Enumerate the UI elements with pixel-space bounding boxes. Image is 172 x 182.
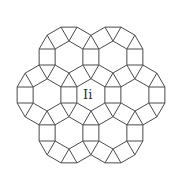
triangle-edge (69, 103, 77, 117)
square-edge (149, 103, 157, 117)
triangle-edge (135, 35, 143, 49)
square-edge (69, 27, 77, 41)
square-edge (121, 79, 135, 87)
square-edge (99, 117, 113, 125)
square-edge (69, 149, 77, 163)
square-edge (113, 117, 127, 125)
figure-label: Ii (83, 88, 92, 101)
square-edge (91, 27, 105, 35)
square-edge (127, 141, 135, 155)
hexagon-edge (33, 103, 47, 111)
square-edge (91, 155, 105, 163)
square-edge (77, 27, 91, 35)
square-edge (47, 155, 61, 163)
square-edge (25, 117, 39, 125)
square-edge (113, 73, 121, 87)
square-edge (47, 111, 55, 125)
hexagon-edge (55, 65, 69, 73)
triangle-edge (91, 65, 99, 79)
hexagon-edge (47, 103, 61, 111)
square-edge (47, 65, 55, 79)
triangle-edge (39, 35, 47, 49)
hexagon-edge (77, 103, 91, 111)
hexagon-edge (99, 41, 113, 49)
square-edge (105, 149, 113, 163)
triangle-edge (91, 141, 99, 155)
square-edge (121, 155, 135, 163)
square-edge (47, 35, 55, 49)
square-edge (47, 27, 61, 35)
square-edge (25, 65, 39, 73)
triangle-edge (135, 141, 143, 155)
square-edge (91, 111, 99, 125)
hexagon-edge (113, 41, 127, 49)
hexagon-edge (69, 65, 83, 73)
triangle-edge (17, 73, 25, 87)
hexagon-edge (99, 65, 113, 73)
square-edge (83, 35, 91, 49)
triangle-edge (17, 103, 25, 117)
hexagon-edge (69, 141, 83, 149)
square-edge (127, 35, 135, 49)
triangle-edge (157, 103, 165, 117)
square-edge (91, 79, 105, 87)
square-edge (113, 149, 121, 163)
square-edge (47, 79, 61, 87)
hexagon-edge (55, 141, 69, 149)
hexagon-edge (91, 103, 105, 111)
square-edge (113, 27, 121, 41)
square-edge (135, 111, 143, 125)
square-edge (55, 117, 69, 125)
square-edge (77, 79, 91, 87)
square-edge (83, 111, 91, 125)
square-edge (127, 111, 135, 125)
square-edge (47, 141, 55, 155)
hexagon-edge (113, 65, 127, 73)
square-edge (127, 65, 135, 79)
square-edge (61, 73, 69, 87)
square-edge (105, 103, 113, 117)
square-edge (143, 65, 157, 73)
triangle-edge (39, 65, 47, 79)
triangle-edge (157, 73, 165, 87)
square-edge (83, 141, 91, 155)
hexagon-edge (69, 41, 83, 49)
hexagon-edge (113, 141, 127, 149)
hexagon-edge (121, 103, 135, 111)
hexagon-edge (99, 141, 113, 149)
square-edge (25, 103, 33, 117)
square-edge (39, 111, 47, 125)
square-edge (69, 73, 77, 87)
square-edge (121, 27, 135, 35)
square-edge (61, 149, 69, 163)
triangle-edge (135, 65, 143, 79)
square-edge (61, 103, 69, 117)
hexagon-edge (135, 103, 149, 111)
hexagon-edge (33, 79, 47, 87)
square-edge (77, 155, 91, 163)
square-edge (105, 27, 113, 41)
hexagon-edge (135, 79, 149, 87)
triangle-edge (113, 103, 121, 117)
square-edge (69, 117, 83, 125)
triangle-edge (39, 141, 47, 155)
square-edge (143, 117, 157, 125)
square-edge (149, 73, 157, 87)
triangle-edge (91, 35, 99, 49)
hexagon-edge (55, 41, 69, 49)
square-edge (83, 65, 91, 79)
square-edge (25, 73, 33, 87)
square-edge (61, 27, 69, 41)
square-edge (105, 73, 113, 87)
